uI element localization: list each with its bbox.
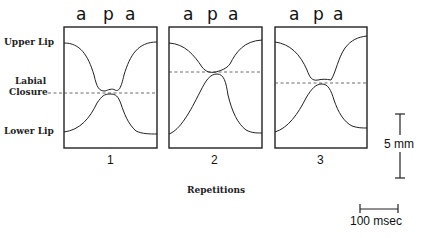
lower-lip-trace: [64, 94, 157, 134]
phoneme-p: p: [313, 4, 324, 24]
phoneme-p: p: [207, 4, 218, 24]
figure-canvas: Upper Lip Labial Closure Lower Lip a p a…: [0, 0, 423, 238]
repetitions-label: Repetitions: [187, 185, 245, 195]
panel-3: a p a 3: [275, 4, 367, 167]
upper-lip-trace: [169, 40, 262, 72]
closure-label: Closure: [9, 87, 48, 97]
upper-lip-label: Upper Lip: [4, 37, 54, 47]
upper-lip-trace: [64, 42, 157, 91]
panel-number: 2: [211, 153, 218, 167]
panel-2-frame: [169, 27, 262, 148]
lower-lip-trace: [275, 84, 367, 132]
horizontal-scale-label: 100 msec: [350, 214, 402, 228]
phoneme-a1: a: [183, 4, 193, 24]
phoneme-a2: a: [333, 4, 343, 24]
phoneme-a1: a: [76, 4, 86, 24]
labial-label: Labial: [15, 76, 47, 86]
horizontal-scale-bar: 100 msec: [350, 204, 402, 228]
panel-1: a p a 1: [64, 4, 157, 167]
panel-2: a p a 2: [169, 4, 262, 167]
phoneme-p: p: [103, 4, 114, 24]
phoneme-a2: a: [125, 4, 135, 24]
panel-number: 3: [317, 153, 324, 167]
vertical-scale-bar: 5 mm: [384, 114, 414, 178]
panel-3-frame: [275, 27, 367, 148]
lower-lip-trace: [169, 74, 262, 134]
phoneme-a1: a: [289, 4, 299, 24]
vertical-scale-label: 5 mm: [384, 137, 414, 151]
upper-lip-trace: [275, 36, 367, 80]
phoneme-a2: a: [228, 4, 238, 24]
lower-lip-label: Lower Lip: [4, 126, 54, 136]
panel-number: 1: [107, 153, 114, 167]
